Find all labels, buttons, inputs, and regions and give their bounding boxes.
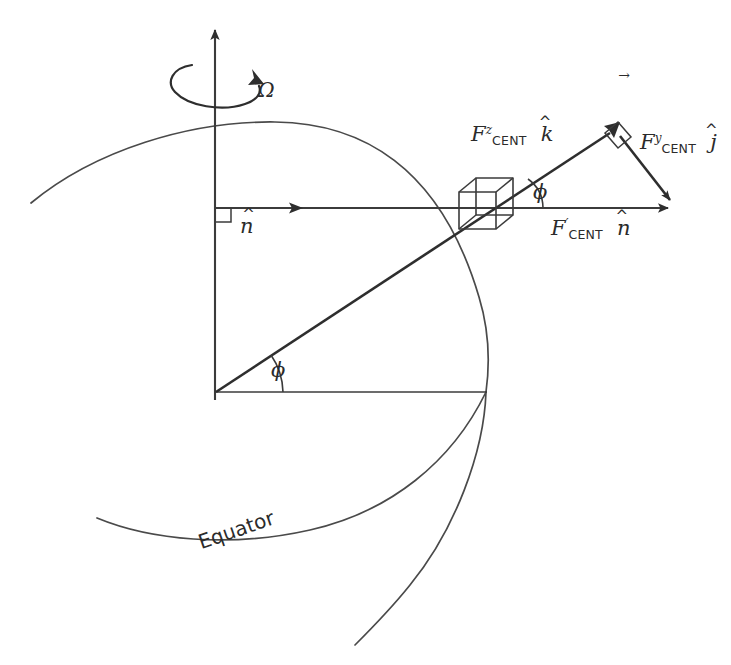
- k-hat-unitvector: ^k: [533, 122, 554, 146]
- n-hat-axis-label: ^n: [240, 214, 254, 238]
- omega-symbol: Ω: [258, 78, 275, 102]
- omega-vector-mark: →: [618, 67, 630, 83]
- fcent-y-label: FyCENT ^j: [640, 130, 717, 154]
- phi-lower-label: ϕ: [271, 358, 285, 382]
- fcent-y-subscript: CENT: [662, 141, 696, 156]
- fcent-prime-subscript: CENT: [569, 227, 603, 242]
- physics-diagram-figure: →Ω ^n FzCENT ^k FyCENT ^j F′CENT ^n ϕ ϕ …: [0, 0, 731, 665]
- j-hat-unitvector: ^j: [702, 130, 717, 154]
- equator-arc: [97, 392, 486, 540]
- omega-label: →Ω: [258, 78, 731, 102]
- phi-upper-label: ϕ: [533, 180, 547, 204]
- n-hat-caret-force: ^: [615, 207, 628, 225]
- fcent-prime-base: F: [551, 216, 566, 240]
- fcent-prime-label: F′CENT ^n: [551, 216, 631, 240]
- cube-edge-tl: [459, 178, 476, 192]
- latitude-radius-line: [216, 133, 610, 392]
- latitude-radius: [216, 122, 620, 392]
- globe-limb-lower: [355, 392, 486, 645]
- cube-edge-tr: [496, 178, 513, 192]
- equator-curve: [97, 392, 486, 540]
- fcent-z-label: FzCENT ^k: [471, 122, 554, 146]
- cube-edge-br: [496, 215, 513, 229]
- fcent-y-base: F: [640, 130, 655, 154]
- j-hat-caret: ^: [705, 121, 718, 139]
- spin-indicator: [171, 65, 264, 108]
- k-hat-caret: ^: [539, 113, 552, 131]
- n-hat-unitvector: ^n: [240, 214, 254, 238]
- fcent-z-subscript: CENT: [492, 133, 526, 148]
- fcent-y-superscript: y: [655, 131, 662, 145]
- globe-outline: [31, 122, 488, 645]
- n-hat-unitvector-force: ^n: [609, 216, 631, 240]
- n-hat-caret: ^: [242, 205, 255, 223]
- right-angle-marker-axis: [216, 208, 231, 222]
- fcent-z-base: F: [471, 122, 486, 146]
